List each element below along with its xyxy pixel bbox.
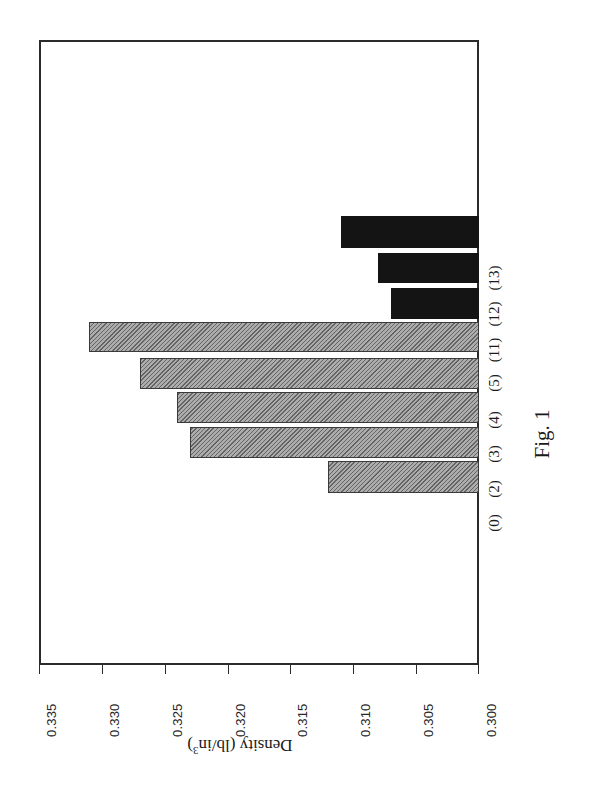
x-tick — [102, 665, 103, 674]
bars-layer — [39, 40, 479, 665]
bar-13 — [341, 216, 479, 248]
x-tick-label: 0.330 — [108, 679, 122, 737]
bar-11 — [391, 288, 479, 319]
x-tick-label: 0.310 — [359, 679, 373, 737]
bar-4 — [140, 358, 479, 389]
bar-3 — [177, 392, 479, 423]
x-tick-label: 0.300 — [485, 679, 499, 737]
x-tick-label: 0.325 — [171, 679, 185, 737]
x-axis-ticks — [39, 665, 479, 679]
figure-caption: Fig. 1 — [528, 392, 556, 476]
x-tick — [228, 665, 229, 674]
category-labels: (13)(12)(11)(5)(4)(3)(2)(0) — [484, 40, 518, 665]
x-tick-label: 0.335 — [45, 679, 59, 737]
patent-figure: 0.3350.3300.3250.3200.3150.3100.3050.300… — [0, 0, 591, 812]
x-tick — [416, 665, 417, 674]
axis-title-exponent: 3 — [193, 745, 199, 757]
x-tick — [290, 665, 291, 674]
bar-0 — [328, 461, 479, 493]
axis-title-paren: ) — [187, 736, 193, 755]
x-axis-title: Density (lb/in3) — [115, 738, 365, 764]
x-axis-tick-labels: 0.3350.3300.3250.3200.3150.3100.3050.300 — [39, 679, 479, 737]
x-tick — [39, 665, 40, 674]
x-tick — [165, 665, 166, 674]
x-tick-label: 0.320 — [234, 679, 248, 737]
axis-title-text: Density (lb/in — [199, 736, 293, 755]
x-tick-label: 0.305 — [422, 679, 436, 737]
bar-5 — [89, 322, 479, 352]
x-tick-label: 0.315 — [296, 679, 310, 737]
x-tick — [478, 665, 479, 674]
bar-12 — [378, 253, 479, 283]
bar-2 — [190, 427, 479, 458]
category-label-0: (0) — [484, 500, 504, 546]
x-tick — [353, 665, 354, 674]
